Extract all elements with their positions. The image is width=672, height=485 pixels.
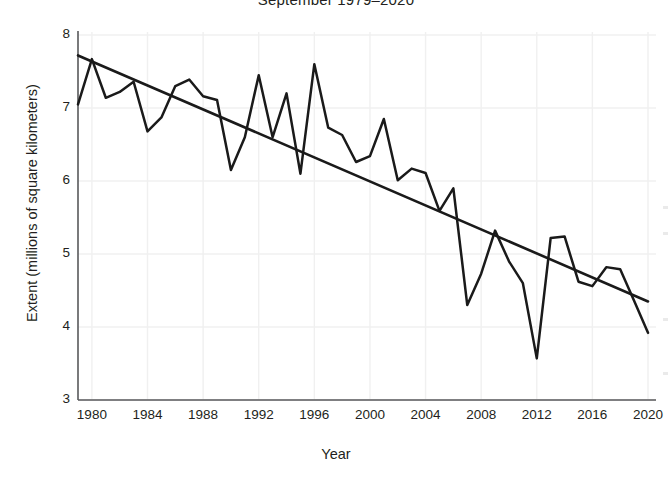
scan-artifact [663, 318, 668, 321]
x-tick-label: 1996 [290, 407, 338, 422]
axis-lines [78, 31, 656, 400]
scan-artifact [663, 372, 668, 375]
x-tick-label: 2008 [457, 407, 505, 422]
y-tick-label: 4 [48, 318, 70, 333]
y-tick-label: 5 [48, 245, 70, 260]
x-tick-label: 1988 [179, 407, 227, 422]
x-tick-label: 2016 [568, 407, 616, 422]
x-tick-label: 1984 [124, 407, 172, 422]
x-tick-label: 1992 [235, 407, 283, 422]
scan-artifact [663, 206, 668, 209]
x-tick-label: 2004 [402, 407, 450, 422]
scan-artifact [663, 232, 668, 235]
x-tick-label: 1980 [68, 407, 116, 422]
y-tick-label: 8 [48, 26, 70, 41]
x-tick-label: 2012 [513, 407, 561, 422]
y-tick-label: 3 [48, 391, 70, 406]
y-tick-label: 7 [48, 99, 70, 114]
x-tick-label: 2020 [624, 407, 672, 422]
x-tick-label: 2000 [346, 407, 394, 422]
y-tick-label: 6 [48, 172, 70, 187]
gridlines [78, 32, 656, 400]
data-series-layer [78, 55, 648, 358]
sea-ice-extent-chart: September 1979–2020 Extent (millions of … [0, 0, 672, 485]
